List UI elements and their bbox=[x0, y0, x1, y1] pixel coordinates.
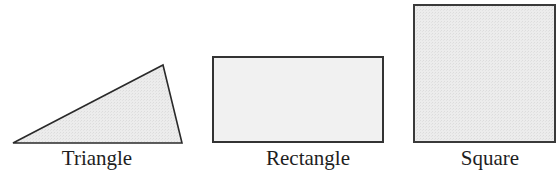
square-label: Square bbox=[440, 146, 540, 170]
triangle-shape bbox=[13, 65, 182, 143]
shapes-diagram: Triangle Rectangle Square bbox=[0, 0, 556, 188]
rectangle-label: Rectangle bbox=[248, 146, 368, 170]
square-shape bbox=[414, 5, 555, 142]
rectangle-shape bbox=[213, 57, 383, 142]
triangle-label: Triangle bbox=[46, 146, 148, 170]
